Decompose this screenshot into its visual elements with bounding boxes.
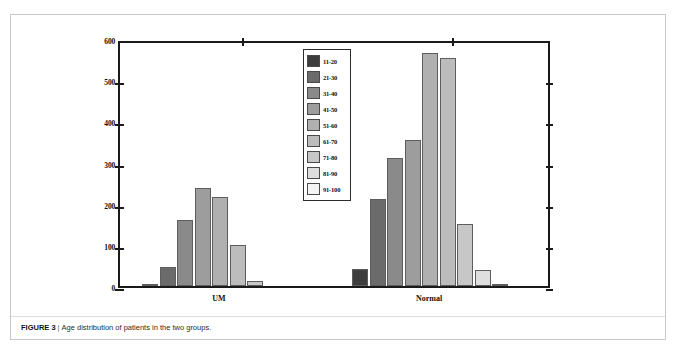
x-axis-group-label: UM: [212, 294, 225, 303]
y-axis-tick-mark: [115, 207, 124, 209]
legend-item: 51-60: [307, 117, 348, 133]
y-axis-tick-mark: [115, 83, 124, 85]
legend-item: 71-80: [307, 149, 348, 165]
legend-swatch: [307, 167, 320, 179]
legend-swatch: [307, 55, 320, 67]
y-axis-tick-label: 500: [104, 78, 115, 87]
legend-label: 81-90: [323, 170, 337, 177]
figure-container: 0100200300400500600 UMNormal 11-2021-303…: [10, 14, 666, 340]
bar: [142, 284, 158, 286]
chart-legend: 11-2021-3031-4041-5051-6061-7071-8081-90…: [303, 49, 351, 201]
bar: [212, 197, 228, 286]
bar: [457, 224, 473, 286]
bar: [370, 199, 386, 286]
bar: [405, 140, 421, 286]
legend-swatch: [307, 183, 320, 195]
y-axis-tick-label: 0: [111, 284, 115, 293]
legend-label: 91-100: [323, 186, 340, 193]
legend-label: 51-60: [323, 122, 337, 129]
y-axis-tick-mark-right: [546, 83, 553, 85]
y-axis-tick-mark-right: [546, 248, 553, 250]
y-axis-tick-label: 600: [104, 37, 115, 46]
figure-caption-separator: |: [58, 323, 60, 332]
legend-label: 21-30: [323, 74, 337, 81]
bar: [160, 267, 176, 286]
y-axis-tick-mark: [115, 166, 124, 168]
bar: [492, 284, 508, 286]
y-axis-tick-mark-right: [546, 207, 553, 209]
legend-label: 11-20: [323, 58, 337, 65]
legend-swatch: [307, 135, 320, 147]
y-axis-tick-mark-right: [546, 124, 553, 126]
legend-item: 21-30: [307, 69, 348, 85]
caption-divider: [11, 316, 665, 317]
bar: [177, 220, 193, 286]
bar: [387, 158, 403, 286]
y-axis-tick-label: 300: [104, 160, 115, 169]
chart-plot-region: 0100200300400500600 UMNormal 11-2021-303…: [11, 15, 667, 305]
bar: [352, 269, 368, 286]
bar: [422, 53, 438, 286]
legend-item: 91-100: [307, 181, 348, 197]
figure-caption: FIGURE 3|Age distribution of patients in…: [21, 322, 655, 334]
legend-swatch: [307, 119, 320, 131]
bar: [195, 188, 211, 286]
bar: [440, 58, 456, 286]
y-axis-tick-label: 100: [104, 242, 115, 251]
legend-label: 61-70: [323, 138, 337, 145]
figure-caption-label: FIGURE 3: [21, 323, 56, 332]
legend-item: 11-20: [307, 53, 348, 69]
legend-item: 61-70: [307, 133, 348, 149]
bar: [230, 245, 246, 286]
legend-label: 41-50: [323, 106, 337, 113]
legend-item: 41-50: [307, 101, 348, 117]
y-axis-tick-mark: [115, 248, 124, 250]
y-axis-tick-label: 400: [104, 119, 115, 128]
y-axis-tick-mark-right: [546, 289, 553, 291]
y-axis-tick-mark: [115, 124, 124, 126]
x-axis-tick-mark-top: [452, 38, 454, 46]
x-axis-group-label: Normal: [416, 294, 442, 303]
bar: [247, 281, 263, 286]
bar: [475, 270, 491, 286]
legend-label: 31-40: [323, 90, 337, 97]
legend-swatch: [307, 151, 320, 163]
legend-item: 31-40: [307, 85, 348, 101]
x-axis-tick-mark-top: [242, 38, 244, 46]
y-axis-tick-label: 200: [104, 201, 115, 210]
figure-caption-text: Age distribution of patients in the two …: [62, 323, 212, 332]
legend-label: 71-80: [323, 154, 337, 161]
legend-item: 81-90: [307, 165, 348, 181]
legend-swatch: [307, 71, 320, 83]
y-axis-tick-mark: [115, 289, 124, 291]
legend-swatch: [307, 87, 320, 99]
y-axis-tick-mark-right: [546, 166, 553, 168]
y-axis-tick-labels: 0100200300400500600: [89, 41, 115, 288]
legend-swatch: [307, 103, 320, 115]
